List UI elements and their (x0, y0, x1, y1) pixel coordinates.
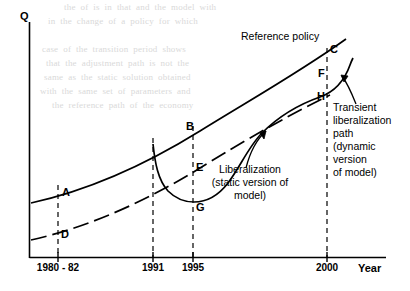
point-label-d: D (61, 228, 69, 240)
point-label-b: B (186, 120, 194, 132)
annotation-liberalization-line1: Liberalization (185, 164, 315, 176)
tick-label-2000: 2000 (307, 262, 347, 273)
annotation-transient-line1: Transient (333, 102, 376, 114)
tick-label-1995: 1995 (173, 262, 213, 273)
point-label-a: A (62, 186, 70, 198)
tick-label-1980-82: 1980 - 82 (18, 262, 98, 273)
annotation-transient-line2: liberalization (333, 115, 391, 127)
annotation-transient-line4: (dynamic (333, 141, 376, 153)
point-label-f: F (318, 67, 325, 79)
tick-label-1991: 1991 (133, 262, 173, 273)
annotation-reference-policy: Reference policy (241, 31, 319, 43)
y-axis-label: Q (20, 10, 29, 22)
annotation-transient-line5: version (333, 154, 367, 166)
point-label-g: G (196, 201, 205, 213)
figure-container: the of is in that and the model with in … (0, 0, 410, 291)
annotation-transient-line3: path (333, 128, 353, 140)
annotation-liberalization-line2: (static version of (185, 177, 315, 189)
annotation-transient-line6: of model) (333, 167, 377, 179)
annotation-liberalization-line3: model) (185, 190, 315, 202)
point-label-c: C (330, 43, 338, 55)
x-axis-label: Year (358, 262, 381, 274)
point-label-h: H (317, 90, 325, 102)
